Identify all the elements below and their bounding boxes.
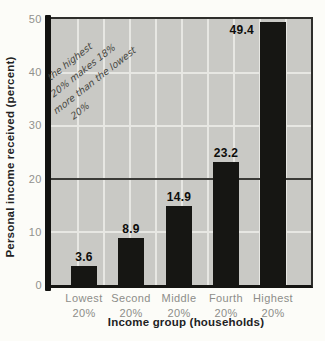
bar-second-20: 8.9	[118, 238, 144, 285]
gridline-vertical	[155, 19, 157, 285]
value-label: 14.9	[167, 190, 192, 204]
value-label: 23.2	[214, 146, 239, 160]
gridline-vertical	[207, 19, 209, 285]
y-axis-line	[45, 15, 51, 291]
value-label: 3.6	[75, 250, 93, 264]
y-tick-0: 0	[0, 279, 42, 291]
bar-lowest-20: 3.6	[71, 266, 97, 285]
value-label: 8.9	[122, 222, 140, 236]
bar-fourth-20: 23.2	[213, 162, 239, 285]
y-tick-30: 30	[0, 119, 42, 131]
y-tick-40: 40	[0, 66, 42, 78]
bar-middle-20: 14.9	[166, 206, 192, 285]
income-distribution-bar-chart: Personal income received (percent) 50 40…	[0, 0, 325, 341]
y-tick-50: 50	[0, 13, 42, 25]
value-label: 49.4	[229, 23, 254, 37]
category-label-line1: Highest	[241, 291, 305, 306]
y-tick-20: 20	[0, 173, 42, 185]
y-tick-10: 10	[0, 226, 42, 238]
bar-highest-20: 49.4	[260, 22, 286, 285]
x-axis-title: Income group (households)	[55, 316, 317, 328]
